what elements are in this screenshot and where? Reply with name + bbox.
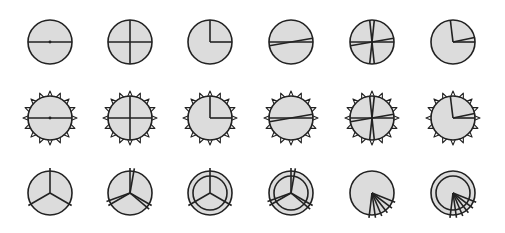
toothed-circles-quarter-clock-glyph (183, 91, 237, 145)
glyph-canvas (0, 0, 505, 233)
tri-spoke-circles-double-three-spokes-glyph (107, 168, 152, 215)
toothed-circles-multi-chord-glyph (345, 91, 399, 145)
plain-circles-narrow-wedge-diameter-glyph (269, 20, 313, 64)
tri-spoke-circles-fan-rays-glyph (350, 171, 395, 218)
plain-circles-pie-rays-glyph (431, 20, 475, 64)
figure-grid (0, 0, 505, 233)
center-dot (49, 117, 52, 120)
tri-spoke-circles-ringed-three-spokes-glyph (188, 168, 232, 215)
tri-spoke-circles-ringed-double-three-spokes-glyph (268, 168, 313, 215)
plain-circles-multi-chord-glyph (350, 20, 394, 64)
center-dot (49, 41, 52, 44)
plain-circles-cross-glyph (108, 20, 152, 64)
tri-spoke-circles-three-spokes-glyph (28, 168, 72, 215)
toothed-circles-cross-glyph (103, 91, 157, 145)
toothed-circles-pie-rays-glyph (426, 91, 480, 145)
toothed-circles-horizontal-diameter-glyph (23, 91, 77, 145)
toothed-circles-narrow-wedge-diameter-glyph (264, 91, 318, 145)
plain-circles-quarter-clock-glyph (188, 20, 232, 64)
plain-circles-horizontal-diameter-glyph (28, 20, 72, 64)
tri-spoke-circles-ringed-fan-rays-glyph (431, 171, 476, 218)
